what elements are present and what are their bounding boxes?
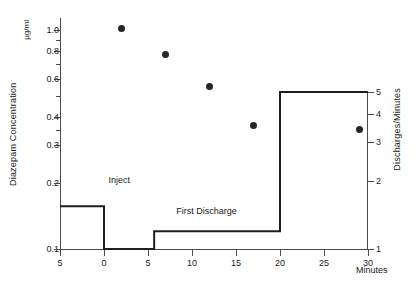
plot-area: 1.00.80.60.40.30.20.1 54321 505101520253… xyxy=(60,18,368,250)
x-axis-tick-label: 15 xyxy=(231,258,241,268)
y-axis-left-tick-label: 1.0 xyxy=(46,25,59,35)
x-axis-tick-label: 20 xyxy=(275,258,285,268)
y-axis-right-tick-label: 4 xyxy=(376,109,381,119)
y-axis-right-title: Discharges/Minutes xyxy=(392,88,402,171)
y-axis-right-tick xyxy=(368,142,374,143)
x-axis-tick xyxy=(280,250,281,256)
x-axis-tick xyxy=(324,250,325,256)
chart-annotation: First Discharge xyxy=(176,206,237,216)
y-axis-right-tick-label: 1 xyxy=(376,244,381,254)
chart-figure: Diazepam Concentration µg/ml Discharges/… xyxy=(0,0,415,293)
y-axis-left-tick-label: 0.4 xyxy=(46,112,59,122)
y-axis-right-tick xyxy=(368,114,374,115)
y-axis-right-tick xyxy=(368,181,374,182)
x-axis-tick-label: 5 xyxy=(57,258,62,268)
y-axis-right-tick-label: 5 xyxy=(376,87,381,97)
y-axis-left-unit: µg/ml xyxy=(22,20,31,40)
x-axis-tick xyxy=(192,250,193,256)
x-axis-tick-label: 10 xyxy=(187,258,197,268)
y-axis-left-tick-label: 0.6 xyxy=(46,74,59,84)
x-axis-tick xyxy=(60,250,61,256)
x-axis-tick-label: 0 xyxy=(101,258,106,268)
x-axis-tick xyxy=(236,250,237,256)
y-axis-left-tick-label: 0.8 xyxy=(46,46,59,56)
scatter-point xyxy=(118,25,125,32)
y-axis-left-tick-label: 0.3 xyxy=(46,140,59,150)
y-axis-left-title: Diazepam Concentration xyxy=(6,18,20,250)
y-axis-left-tick-label: 0.1 xyxy=(46,244,59,254)
x-axis-tick xyxy=(104,250,105,256)
y-axis-right-tick xyxy=(368,92,374,93)
y-axis-right-tick-label: 2 xyxy=(376,176,381,186)
x-axis-tick xyxy=(148,250,149,256)
x-axis-tick-label: 30 xyxy=(363,258,373,268)
y-axis-right-tick-label: 3 xyxy=(376,137,381,147)
x-axis-tick-label: 25 xyxy=(319,258,329,268)
y-axis-left-tick-label: 0.2 xyxy=(46,178,59,188)
chart-annotation: Inject xyxy=(108,175,130,185)
x-axis-tick-label: 5 xyxy=(145,258,150,268)
x-axis-tick xyxy=(368,250,369,256)
